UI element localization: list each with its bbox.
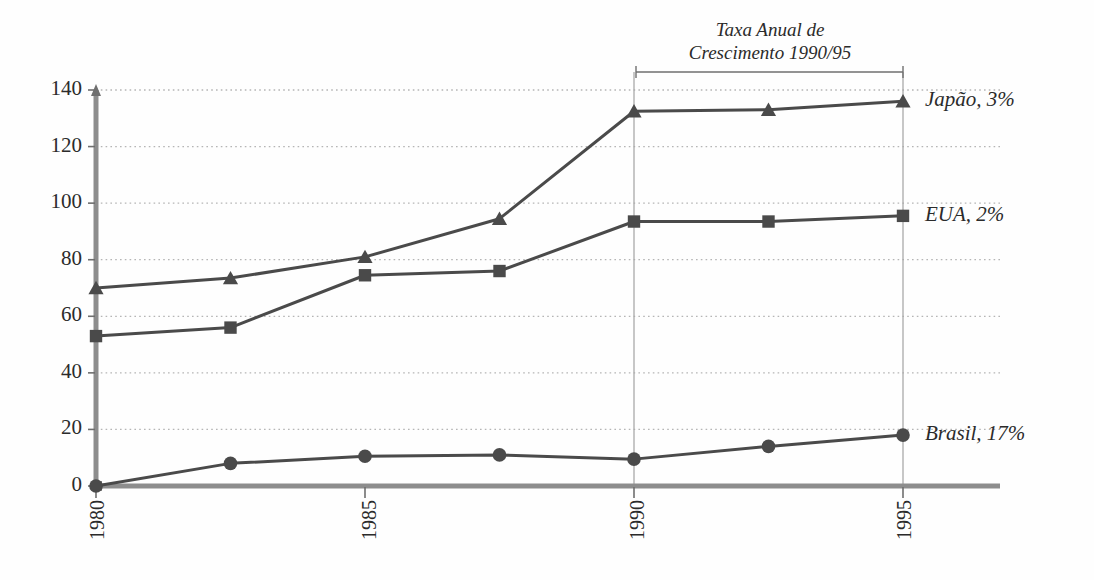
x-tick-label: 1985 <box>358 500 380 540</box>
reference-lines <box>634 72 903 486</box>
legend: Japão, 3% EUA, 2% Brasil, 17% <box>924 87 1025 445</box>
y-tick-label: 80 <box>61 246 82 270</box>
data-point-marker-circle <box>358 450 372 464</box>
series-label-brasil: Brasil, 17% <box>925 421 1025 445</box>
x-axis-tick-labels: 1980 1985 1990 1995 <box>86 500 915 540</box>
y-tick-label: 20 <box>61 415 82 439</box>
y-axis-tick-labels: 0 20 40 60 80 100 120 140 <box>51 76 83 496</box>
y-tick-label: 100 <box>51 189 83 213</box>
data-point-marker-square <box>90 330 102 342</box>
x-axis-ticks <box>96 487 903 498</box>
y-tick-label: 0 <box>72 472 83 496</box>
data-point-marker-square <box>359 269 371 281</box>
y-tick-label: 120 <box>51 133 83 157</box>
data-point-marker-circle <box>89 479 103 493</box>
y-tick-label: 40 <box>61 359 82 383</box>
gridlines <box>96 90 1000 429</box>
data-series-layer <box>88 94 910 493</box>
data-point-marker-square <box>897 210 909 222</box>
data-point-marker-square <box>493 265 505 277</box>
series-1 <box>90 210 909 343</box>
data-point-marker-circle <box>627 452 641 466</box>
line-chart: 0 20 40 60 80 100 120 140 1980 1985 1990… <box>0 0 1094 580</box>
growth-rate-annotation: Taxa Anual de Crescimento 1990/95 <box>636 19 903 78</box>
data-point-marker-circle <box>493 448 507 462</box>
data-point-marker-circle <box>896 428 910 442</box>
data-point-marker-circle <box>762 440 776 454</box>
annotation-line-1: Taxa Anual de <box>716 19 825 40</box>
series-2 <box>89 428 910 493</box>
x-tick-label: 1990 <box>626 500 648 540</box>
data-point-marker-circle <box>224 457 238 471</box>
x-tick-label: 1980 <box>86 500 108 540</box>
series-label-japao: Japão, 3% <box>925 87 1015 111</box>
data-point-marker-square <box>762 215 774 227</box>
x-tick-label: 1995 <box>893 500 915 540</box>
series-label-eua: EUA, 2% <box>924 202 1004 226</box>
series-0 <box>88 94 910 294</box>
annotation-line-2: Crescimento 1990/95 <box>689 42 851 63</box>
y-tick-label: 140 <box>51 76 83 100</box>
data-point-marker-square <box>224 321 236 333</box>
data-point-marker-square <box>628 215 640 227</box>
chart-canvas: 0 20 40 60 80 100 120 140 1980 1985 1990… <box>0 0 1094 580</box>
y-tick-label: 60 <box>61 302 82 326</box>
